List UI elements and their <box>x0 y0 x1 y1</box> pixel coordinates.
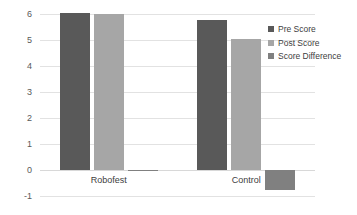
bar-control-pre-score[interactable] <box>197 20 227 170</box>
bar-robofest-pre-score[interactable] <box>60 13 90 170</box>
bar-robofest-score-difference[interactable] <box>128 170 158 171</box>
y-axis-tick-label: 1 <box>0 139 32 149</box>
legend-swatch-icon <box>268 26 274 32</box>
legend-label: Score Difference <box>278 52 341 61</box>
y-axis-tick-label: 0 <box>0 165 32 175</box>
y-axis-tick-label: -1 <box>0 191 32 201</box>
bar-control-post-score[interactable] <box>231 39 261 170</box>
legend-label: Pre Score <box>278 25 316 34</box>
y-axis-tick-label: 2 <box>0 113 32 123</box>
legend-item-score-difference[interactable]: Score Difference <box>268 52 341 61</box>
y-axis-tick-label: 6 <box>0 9 32 19</box>
bar-chart: Pre ScorePost ScoreScore Difference 6543… <box>0 0 357 215</box>
bar-robofest-post-score[interactable] <box>94 14 124 170</box>
legend-item-post-score[interactable]: Post Score <box>268 39 341 48</box>
legend-item-pre-score[interactable]: Pre Score <box>268 25 341 34</box>
x-axis-tick-label: Robofest <box>40 175 178 185</box>
y-axis-tick-label: 3 <box>0 87 32 97</box>
legend-label: Post Score <box>278 39 320 48</box>
gridline <box>40 196 315 197</box>
y-axis-tick-label: 5 <box>0 35 32 45</box>
chart-legend: Pre ScorePost ScoreScore Difference <box>268 25 341 61</box>
y-axis-tick-label: 4 <box>0 61 32 71</box>
legend-swatch-icon <box>268 40 274 46</box>
legend-swatch-icon <box>268 53 274 59</box>
x-axis-tick-label: Control <box>178 175 316 185</box>
